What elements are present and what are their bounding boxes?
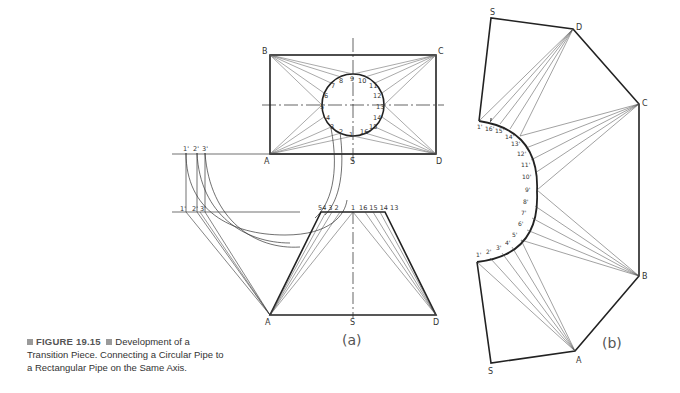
svg-text:B: B [642, 272, 648, 281]
svg-text:11': 11' [521, 161, 531, 168]
svg-text:2': 2' [486, 248, 492, 255]
svg-text:1': 1' [183, 145, 189, 153]
svg-text:9': 9' [525, 186, 531, 193]
svg-text:16 15 14 13: 16 15 14 13 [359, 204, 398, 212]
svg-text:15: 15 [369, 123, 377, 131]
svg-text:7: 7 [331, 82, 335, 90]
svg-text:2: 2 [339, 128, 343, 136]
plan-view [262, 38, 444, 165]
figure-caption: FIGURE 19.15 Development of a Transition… [27, 335, 227, 374]
svg-text:9: 9 [350, 75, 354, 83]
svg-text:5': 5' [512, 231, 518, 238]
svg-text:S: S [350, 157, 355, 166]
figure-label: FIGURE 19.15 [36, 336, 101, 347]
svg-text:10': 10' [522, 173, 532, 180]
elevation-view [270, 212, 436, 318]
svg-text:14': 14' [505, 133, 515, 140]
svg-text:A: A [265, 318, 271, 327]
svg-text:S: S [488, 367, 493, 376]
svg-text:1': 1' [180, 205, 186, 213]
svg-text:A: A [576, 356, 582, 365]
svg-text:2': 2' [193, 145, 199, 153]
svg-text:14: 14 [373, 114, 381, 122]
svg-text:S: S [490, 8, 495, 17]
svg-text:3': 3' [202, 145, 208, 153]
svg-text:1': 1' [477, 123, 483, 130]
svg-text:3': 3' [200, 205, 206, 213]
svg-text:54 3 2: 54 3 2 [318, 204, 339, 212]
construction-lines [172, 128, 436, 315]
svg-text:D: D [576, 23, 582, 32]
svg-text:3': 3' [496, 244, 502, 251]
svg-text:1: 1 [351, 204, 355, 212]
svg-text:8': 8' [523, 198, 529, 205]
bullet-square-icon [27, 339, 33, 345]
bullet-square-icon [106, 339, 112, 345]
svg-text:C: C [642, 99, 648, 108]
svg-text:6: 6 [324, 92, 328, 100]
svg-text:1': 1' [476, 251, 482, 258]
svg-text:D: D [436, 157, 442, 166]
development-vertex-labels: S D C B A S [488, 8, 648, 376]
svg-text:6': 6' [518, 220, 524, 227]
svg-text:4: 4 [326, 114, 330, 122]
svg-text:15': 15' [495, 127, 505, 134]
svg-text:16: 16 [360, 128, 368, 136]
svg-text:13: 13 [376, 103, 384, 111]
svg-text:7': 7' [521, 209, 527, 216]
svg-text:8: 8 [339, 77, 343, 85]
svg-text:D: D [433, 318, 439, 327]
svg-text:10: 10 [358, 77, 366, 85]
svg-text:16': 16' [485, 125, 495, 132]
svg-text:12: 12 [373, 92, 381, 100]
svg-text:S: S [350, 318, 355, 327]
svg-text:3: 3 [330, 123, 334, 131]
elevation-labels: 54 3 2 1 16 15 14 13 A S D [265, 204, 439, 327]
svg-text:12': 12' [517, 150, 527, 157]
true-length-labels: 1' 2' 3' 1' 2' 3' [180, 145, 208, 213]
svg-text:4': 4' [505, 239, 511, 246]
development-view [477, 18, 639, 363]
svg-text:2': 2' [192, 205, 198, 213]
svg-text:C: C [438, 47, 444, 56]
svg-text:A: A [264, 157, 270, 166]
svg-text:13': 13' [511, 140, 521, 147]
view-a-label: (a) [342, 332, 362, 348]
svg-text:5: 5 [320, 103, 324, 111]
svg-text:1: 1 [349, 131, 353, 139]
svg-text:11: 11 [369, 82, 377, 90]
svg-text:B: B [262, 47, 268, 56]
view-b-label: (b) [602, 335, 622, 351]
